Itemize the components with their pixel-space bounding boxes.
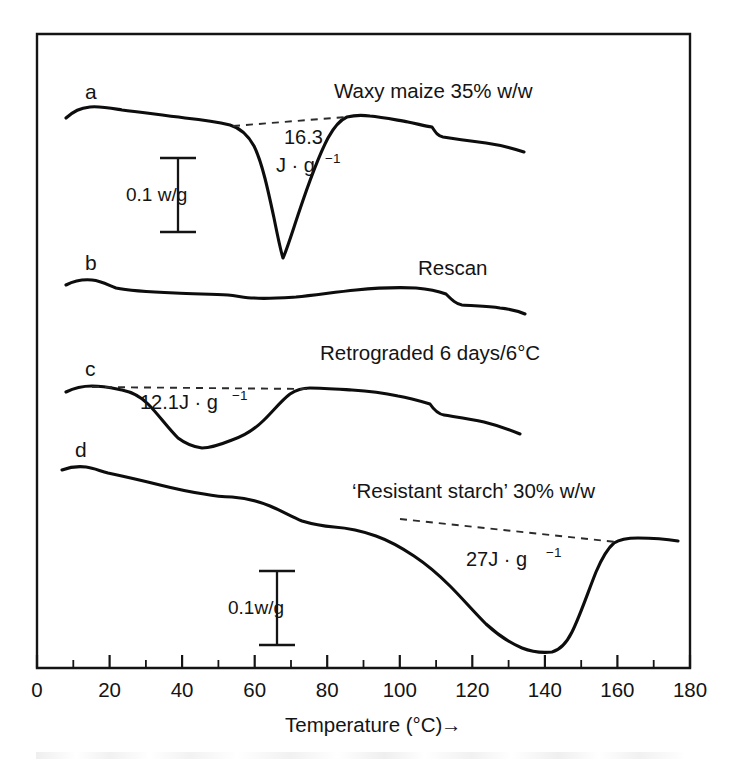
x-tick-120: 120	[455, 678, 489, 701]
curve-letter-c: c	[85, 357, 96, 380]
x-tick-100: 100	[383, 678, 417, 701]
sample-label-c: Retrograded 6 days/6°C	[320, 341, 540, 364]
enthalpy-a-units: J · g	[276, 154, 315, 176]
dsc-thermogram-figure: a b c d Waxy maize 35% w/w Rescan Retrog…	[0, 0, 737, 768]
enthalpy-c-group: 12.1J · g −1	[140, 388, 247, 413]
x-tick-40: 40	[171, 678, 194, 701]
sample-label-b: Rescan	[418, 256, 488, 279]
x-tick-140: 140	[528, 678, 562, 701]
curve-a-baseline	[233, 117, 346, 126]
curve-c-trace	[66, 386, 520, 448]
scale-bar-upper-label: 0.1 w/g	[126, 184, 187, 205]
x-axis-title-group: Temperature (°C) →	[285, 713, 462, 736]
curve-d-baseline	[400, 519, 616, 542]
enthalpy-d-exponent: −1	[546, 545, 561, 560]
scale-bar-lower-label: 0.1w/g	[228, 597, 284, 618]
x-tick-20: 20	[98, 678, 121, 701]
x-tick-160: 160	[600, 678, 634, 701]
curve-letter-b: b	[85, 251, 97, 274]
enthalpy-c-value: 12.1J · g	[140, 391, 218, 413]
enthalpy-a-value: 16.3	[284, 126, 323, 148]
curve-letter-d: d	[75, 438, 87, 461]
x-tick-0: 0	[31, 678, 42, 701]
enthalpy-d-value: 27J · g	[466, 548, 527, 570]
curve-b-trace	[66, 280, 525, 314]
curve-c-baseline	[92, 387, 307, 389]
curve-letter-a: a	[85, 80, 97, 103]
enthalpy-d-group: 27J · g −1	[466, 545, 561, 570]
caption-partial-text	[36, 752, 706, 759]
x-axis-arrow-icon: →	[441, 713, 462, 736]
enthalpy-a-exponent: −1	[325, 151, 340, 166]
x-tick-180: 180	[673, 678, 707, 701]
x-axis-title: Temperature (°C)	[285, 713, 442, 736]
x-tick-80: 80	[316, 678, 339, 701]
sample-label-d: ‘Resistant starch’ 30% w/w	[352, 479, 595, 502]
x-axis-tick-labels: 0 20 40 60 80 100 120 140 160 180	[31, 678, 707, 701]
enthalpy-a-units-group: J · g −1	[276, 151, 340, 176]
x-tick-60: 60	[243, 678, 266, 701]
dsc-plot-svg: a b c d Waxy maize 35% w/w Rescan Retrog…	[0, 0, 737, 768]
enthalpy-c-exponent: −1	[232, 388, 247, 403]
sample-label-a: Waxy maize 35% w/w	[334, 79, 533, 102]
